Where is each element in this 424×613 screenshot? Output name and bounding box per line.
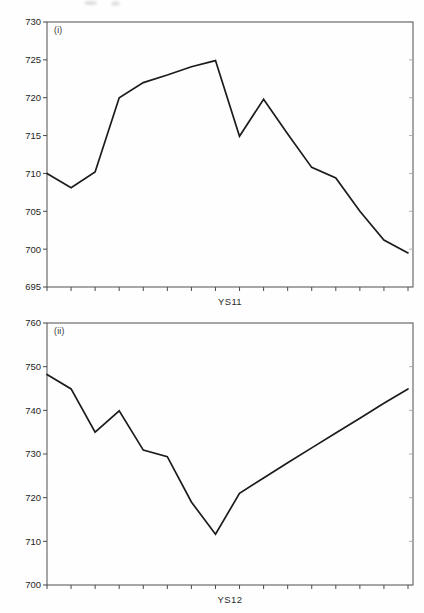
chart-ys11: 695700705710715720725730 xyxy=(25,16,413,292)
y-tick-label: 730 xyxy=(25,448,41,459)
panel-label-ii: (ii) xyxy=(54,326,65,336)
series-line-ys11 xyxy=(47,61,408,253)
y-tick-label: 695 xyxy=(25,281,41,292)
y-tick-label: 710 xyxy=(25,168,41,179)
y-tick-label: 705 xyxy=(25,206,41,217)
y-tick-label: 730 xyxy=(25,16,41,27)
y-tick-label: 720 xyxy=(25,92,41,103)
y-tick-label: 720 xyxy=(25,492,41,503)
y-tick-label: 700 xyxy=(25,579,41,590)
x-axis-label-ys12: YS12 xyxy=(47,594,413,605)
plot-frame xyxy=(47,22,413,287)
plot-frame xyxy=(47,323,413,585)
chart-ys12: 700710720730740750760 xyxy=(25,317,413,590)
scanned-figure-page: 6957007057107157207257307007107207307407… xyxy=(0,0,424,613)
panel-label-i: (i) xyxy=(54,25,62,35)
y-tick-label: 740 xyxy=(25,405,41,416)
y-tick-label: 750 xyxy=(25,361,41,372)
y-tick-label: 725 xyxy=(25,54,41,65)
y-tick-label: 710 xyxy=(25,536,41,547)
y-tick-label: 760 xyxy=(25,317,41,328)
y-tick-label: 700 xyxy=(25,244,41,255)
series-line-ys12 xyxy=(47,375,408,535)
x-axis-label-ys11: YS11 xyxy=(47,296,413,307)
y-tick-label: 715 xyxy=(25,130,41,141)
